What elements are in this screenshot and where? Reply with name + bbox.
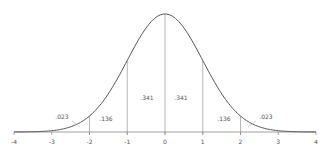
x-tick-label: 0 xyxy=(163,138,167,145)
x-tick-label: 2 xyxy=(239,138,243,145)
x-tick-label: -3 xyxy=(49,138,55,145)
region-label: .136 xyxy=(217,115,231,122)
region-label: .341 xyxy=(174,94,188,101)
x-tick-label: 4 xyxy=(314,138,318,145)
x-tick-label: -1 xyxy=(124,138,130,145)
x-tick-label: 1 xyxy=(201,138,205,145)
region-label: .023 xyxy=(259,113,273,120)
x-tick-label: -2 xyxy=(87,138,93,145)
region-label: .136 xyxy=(99,115,113,122)
x-tick-label: -4 xyxy=(11,138,17,145)
x-tick-label: 3 xyxy=(276,138,280,145)
normal-distribution-chart: -4-3-2-101234 .023.136.341.341.136.023 xyxy=(0,0,328,155)
region-label: .023 xyxy=(55,113,69,120)
region-label: .341 xyxy=(140,94,154,101)
x-axis-ticks: -4-3-2-101234 xyxy=(11,132,318,145)
